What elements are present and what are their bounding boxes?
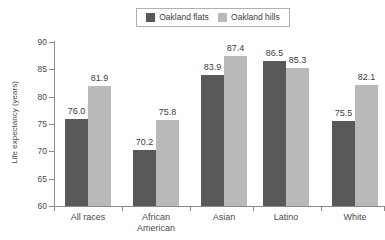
y-tick-label: 60: [38, 202, 47, 211]
y-tick-label: 90: [38, 38, 47, 47]
y-tick-mark: [49, 97, 54, 98]
bar-value-label: 83.9: [204, 63, 222, 72]
bar-all-races-oakland-flats: [65, 119, 88, 206]
x-category-label-all-races: All races: [71, 212, 106, 223]
chart-legend: Oakland flats Oakland hills: [136, 8, 290, 27]
x-category-label-white: White: [343, 212, 366, 223]
legend-label-oakland-hills: Oakland hills: [231, 13, 280, 22]
x-tick-mark-2: [190, 206, 191, 211]
legend-item-oakland-hills: Oakland hills: [218, 13, 280, 22]
x-category-label-african-american: AfricanAmerican: [137, 212, 175, 234]
y-tick-label: 70: [38, 147, 47, 156]
x-tick-mark-0: [54, 206, 55, 211]
bar-latino-oakland-flats: [263, 61, 286, 206]
bar-white-oakland-hills: [355, 85, 378, 206]
bar-value-label: 85.3: [289, 56, 307, 65]
bar-latino-oakland-hills: [286, 68, 309, 206]
x-tick-mark-4: [321, 206, 322, 211]
bar-african-american-oakland-flats: [133, 150, 156, 206]
legend-swatch-oakland-hills: [218, 13, 227, 22]
y-tick-label: 85: [38, 65, 47, 74]
plot-area: 6065707580859076.081.970.275.883.987.486…: [54, 42, 385, 206]
x-category-label-line: White: [343, 212, 366, 223]
bar-chart: Oakland flats Oakland hills Life expecta…: [0, 0, 385, 240]
bar-value-label: 82.1: [358, 73, 376, 82]
legend-item-oakland-flats: Oakland flats: [146, 13, 209, 22]
x-tick-mark-3: [253, 206, 254, 211]
x-category-label-asian: Asian: [213, 212, 236, 223]
bar-african-american-oakland-hills: [156, 120, 179, 206]
legend-label-oakland-flats: Oakland flats: [159, 13, 209, 22]
y-tick-mark: [49, 179, 54, 180]
bar-value-label: 76.0: [68, 107, 86, 116]
legend-swatch-oakland-flats: [146, 13, 155, 22]
x-category-label-line: African: [137, 212, 175, 223]
y-tick-mark: [49, 42, 54, 43]
y-tick-mark: [49, 69, 54, 70]
x-axis-line: [54, 206, 385, 207]
bar-value-label: 75.5: [335, 109, 353, 118]
x-category-label-line: All races: [71, 212, 106, 223]
bar-all-races-oakland-hills: [88, 86, 111, 206]
bar-white-oakland-flats: [332, 121, 355, 206]
y-axis-title: Life expectancy (years): [10, 53, 19, 193]
x-category-label-line: Latino: [274, 212, 299, 223]
x-category-label-latino: Latino: [274, 212, 299, 223]
x-tick-mark-1: [122, 206, 123, 211]
bar-value-label: 75.8: [159, 108, 177, 117]
bar-asian-oakland-hills: [224, 56, 247, 206]
x-category-label-line: Asian: [213, 212, 236, 223]
x-category-label-line: American: [137, 223, 175, 234]
y-tick-label: 65: [38, 174, 47, 183]
y-tick-mark: [49, 151, 54, 152]
y-tick-mark: [49, 124, 54, 125]
bar-value-label: 70.2: [136, 138, 154, 147]
bar-value-label: 87.4: [227, 44, 245, 53]
y-tick-label: 75: [38, 120, 47, 129]
y-tick-label: 80: [38, 92, 47, 101]
bar-value-label: 81.9: [91, 74, 109, 83]
bar-asian-oakland-flats: [201, 75, 224, 206]
bar-value-label: 86.5: [266, 49, 284, 58]
